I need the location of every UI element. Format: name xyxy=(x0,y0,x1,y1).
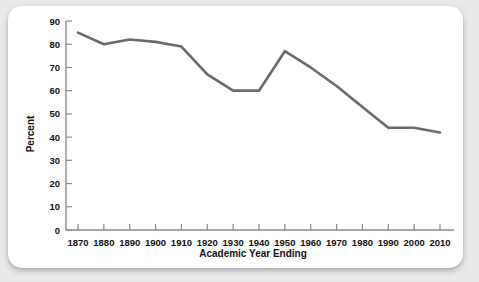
x-tick-label: 1980 xyxy=(352,237,373,248)
x-tick-label: 1970 xyxy=(326,237,347,248)
x-tick-label: 1870 xyxy=(67,237,88,248)
x-tick-label: 1950 xyxy=(274,237,295,248)
figure-card: 0102030405060708090 18701880189019001910… xyxy=(8,6,463,268)
y-tick-label: 90 xyxy=(49,16,60,27)
y-tick-label: 30 xyxy=(49,155,60,166)
y-axis-tick-labels: 0102030405060708090 xyxy=(49,16,60,236)
x-tick-label: 1910 xyxy=(171,237,192,248)
y-tick-label: 40 xyxy=(49,132,60,143)
y-tick-label: 80 xyxy=(49,39,60,50)
x-tick-label: 1890 xyxy=(119,237,140,248)
line-chart: 0102030405060708090 18701880189019001910… xyxy=(8,6,463,268)
y-tick-label: 10 xyxy=(49,201,60,212)
x-tick-label: 1940 xyxy=(248,237,269,248)
y-tick-label: 60 xyxy=(49,85,60,96)
y-tick-label: 70 xyxy=(49,62,60,73)
x-tick-label: 2000 xyxy=(404,237,425,248)
y-axis-title: Percent xyxy=(25,115,36,152)
y-tick-label: 50 xyxy=(49,108,60,119)
x-tick-label: 1920 xyxy=(197,237,218,248)
x-tick-label: 1930 xyxy=(223,237,244,248)
x-tick-label: 1960 xyxy=(300,237,321,248)
x-tick-label: 1900 xyxy=(145,237,166,248)
x-tick-label: 1880 xyxy=(93,237,114,248)
axis-lines xyxy=(66,21,454,230)
x-axis-title: Academic Year Ending xyxy=(199,248,307,259)
data-series-line xyxy=(78,33,440,133)
x-tick-label: 2010 xyxy=(429,237,450,248)
x-axis-tick-labels: 1870188018901900191019201930194019501960… xyxy=(67,237,450,248)
chart-plot-area: 0102030405060708090 18701880189019001910… xyxy=(8,6,463,268)
x-tick-label: 1990 xyxy=(378,237,399,248)
y-tick-label: 20 xyxy=(49,178,60,189)
y-tick-label: 0 xyxy=(55,225,60,236)
